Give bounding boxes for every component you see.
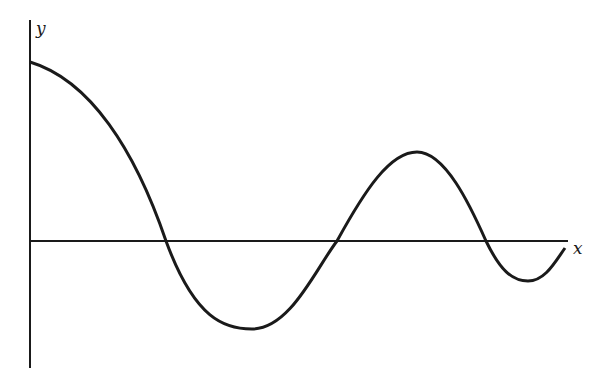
damped-wave-curve bbox=[30, 62, 565, 329]
y-axis-label: y bbox=[36, 18, 46, 38]
x-axis-label: x bbox=[573, 238, 583, 258]
diagram-canvas bbox=[0, 0, 605, 385]
